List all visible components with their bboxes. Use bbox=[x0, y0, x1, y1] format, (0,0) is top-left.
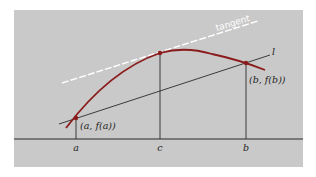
point-b-label: (b, f(b)) bbox=[249, 74, 286, 85]
mean-value-theorem-diagram: tangent l (a, f(a)) (b, f(b)) a c b bbox=[0, 0, 316, 177]
secant-label: l bbox=[272, 46, 275, 57]
point-a bbox=[74, 116, 78, 120]
point-c bbox=[158, 51, 162, 55]
point-a-label: (a, f(a)) bbox=[80, 120, 116, 131]
secant-line bbox=[59, 55, 270, 124]
point-b bbox=[244, 61, 248, 65]
axis-label-b: b bbox=[243, 142, 249, 153]
axis-label-a: a bbox=[73, 142, 79, 153]
axis-label-c: c bbox=[157, 142, 163, 153]
tangent-label: tangent bbox=[214, 13, 251, 33]
